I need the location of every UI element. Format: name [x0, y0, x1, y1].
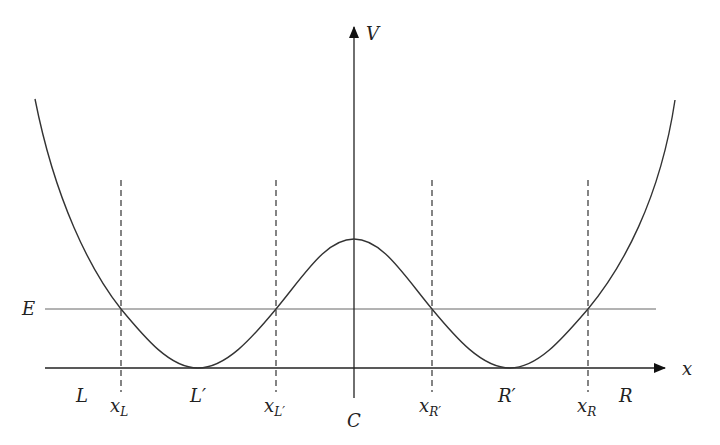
region-label-Rprime: R′	[497, 385, 516, 406]
turning-point-label-xRprime: xR′	[419, 395, 441, 419]
turning-point-label-xL: xL	[110, 395, 128, 419]
region-label-L: L	[75, 385, 88, 406]
x-axis-label: x	[682, 358, 692, 379]
region-label-R: R	[618, 385, 633, 406]
turning-point-label-xR: xR	[577, 395, 596, 419]
v-axis-label: V	[366, 23, 381, 44]
region-label-C: C	[347, 410, 361, 431]
energy-label: E	[21, 298, 35, 319]
turning-point-label-xLprime: xL′	[264, 395, 285, 419]
region-label-Lprime: L′	[189, 385, 206, 406]
potential-curve	[35, 99, 675, 368]
double-well-diagram: V x E L L′ C R′ R xL xL′ xR′ xR	[0, 0, 720, 445]
